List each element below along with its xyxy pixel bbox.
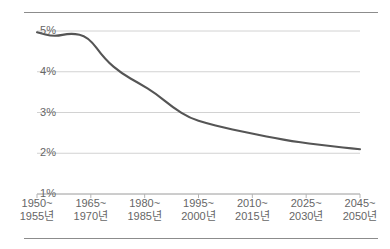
chart-figure: 5%4%3%2%1% 1950~1955년1965~1970년1980~1985…: [0, 0, 390, 249]
x-axis-tick-label: 2045~2050년: [327, 197, 390, 223]
y-axis-tick-label: 5%: [22, 25, 56, 36]
gridlines-group: [37, 31, 360, 194]
y-axis-tick-label: 4%: [22, 66, 56, 77]
x-axis-tick-label-line2: 2050년: [327, 210, 390, 223]
y-axis-tick-label: 3%: [22, 107, 56, 118]
x-axis-tick-label-line1: 2045~: [327, 197, 390, 210]
data-line-series: [37, 32, 360, 149]
y-axis-tick-label: 2%: [22, 147, 56, 158]
x-axis-labels: 1950~1955년1965~1970년1980~1985년1995~2000년…: [0, 197, 390, 237]
